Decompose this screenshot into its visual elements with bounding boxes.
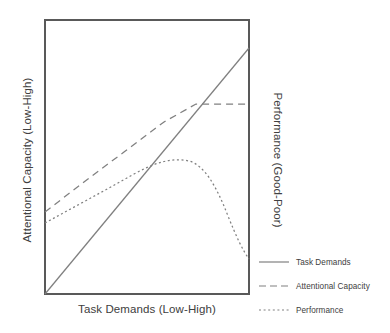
series-line-attentional-capacity (45, 104, 249, 212)
legend-label-task-demands: Task Demands (296, 258, 351, 267)
y-axis-label-left: Attentional Capacity (Low-High) (21, 60, 33, 260)
series-line-task-demands (45, 48, 249, 294)
x-axis-label: Task Demands (Low-High) (44, 303, 250, 315)
legend-key-dotted-line-icon (259, 304, 289, 316)
series-line-performance (45, 160, 249, 259)
legend-item-performance: Performance (259, 298, 387, 322)
legend-key-solid-line-icon (259, 256, 289, 268)
legend-item-task-demands: Task Demands (259, 250, 387, 274)
y-axis-label-right: Performance (Good-Poor) (272, 60, 284, 260)
legend-label-attentional-capacity: Attentional Capacity (296, 282, 370, 291)
legend-label-performance: Performance (296, 306, 343, 315)
legend-key-dashed-line-icon (259, 280, 289, 292)
legend-item-attentional-capacity: Attentional Capacity (259, 274, 387, 298)
chart-figure: Attentional Capacity (Low-High) Performa… (0, 0, 390, 333)
plot-series-layer (44, 19, 250, 295)
chart-legend: Task Demands Attentional Capacity Perfor… (259, 250, 387, 322)
